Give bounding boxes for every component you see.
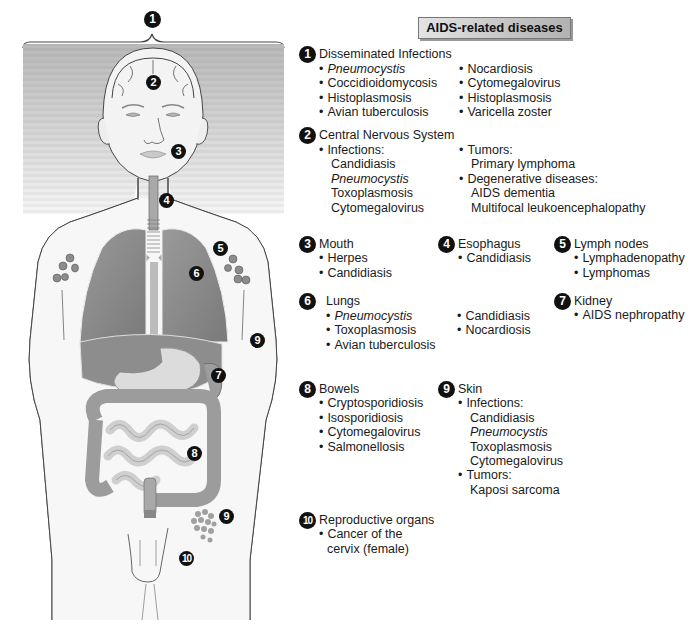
number-badge-6: 6 [299,293,316,310]
column-left: Pneumocystis Toxoplasmosis Avian tubercu… [326,309,436,352]
marker-6: 6 [189,266,204,281]
marker-7: 7 [211,368,226,383]
sublist-label: Infections: [458,396,598,410]
list-item: Toxoplasmosis [458,440,598,454]
list-item: Coccidioidomycosis [319,76,437,90]
column-right: Nocardiosis Cytomegalovirus Histoplasmos… [459,62,560,120]
body-drawing [0,0,300,628]
number-badge-3: 3 [299,236,316,253]
list-item: Nocardiosis [457,323,531,337]
list-item: Cytomegalovirus [458,454,598,468]
marker-5: 5 [213,241,228,256]
list-item: Salmonellosis [319,440,439,454]
section-heading: 10 Reproductive organs [299,513,459,527]
number-badge-4: 4 [438,236,455,253]
marker-2: 2 [146,75,161,90]
column-left: Infections: Candidiasis Pneumocystis Tox… [319,143,424,215]
number-badge-9: 9 [438,381,455,398]
section-heading: 1 Disseminated Infections [299,47,689,61]
section-lymph-nodes: 5 Lymph nodes Lymphadenopathy Lymphomas [554,237,700,280]
section-lungs: 6 Lungs Pneumocystis Toxoplasmosis Avian… [299,294,549,354]
list-item: AIDS nephropathy [574,308,700,322]
number-badge-2: 2 [299,127,316,144]
sublist-label: Tumors: [458,468,598,482]
section-cns: 2 Central Nervous System Infections: Can… [299,128,699,223]
section-heading: 9 Skin [438,382,598,396]
list-item: Multifocal leukoencephalopathy [459,201,645,215]
section-heading: 3 Mouth [299,237,429,251]
list-item-continuation: cervix (female) [319,542,459,556]
marker-1: 1 [144,11,161,28]
list-item: Cytomegalovirus [459,76,560,90]
section-bowels: 8 Bowels Cryptosporidiosis Isosporidiosi… [299,382,439,454]
section-heading: 4 Esophagus [438,237,548,251]
section-heading: 7 Kidney [554,294,700,308]
list-item: Primary lymphoma [459,157,645,171]
heading-text: Bowels [319,382,359,396]
heading-text: Lungs [326,294,360,308]
heading-text: Kidney [574,294,612,308]
list-item: Pneumocystis [458,425,598,439]
list-item: Histoplasmosis [459,91,560,105]
number-badge-7: 7 [554,293,571,310]
list-item: Cytomegalovirus [319,201,424,215]
heading-text: Skin [458,382,482,396]
section-heading: 5 Lymph nodes [554,237,700,251]
column-right: Tumors: Primary lymphoma Degenerative di… [459,143,645,215]
heading-text: Disseminated Infections [319,47,452,61]
list-item: Candidiasis [319,157,424,171]
diagram-title: AIDS-related diseases [418,17,571,39]
marker-4: 4 [159,193,174,208]
list-item: Candidiasis [458,251,548,265]
list-item: Pneumocystis [319,62,437,76]
sublist-label: Degenerative diseases: [459,172,645,186]
marker-3: 3 [171,144,186,159]
list-item: Cytomegalovirus [319,425,439,439]
section-heading: 2 Central Nervous System [299,128,699,142]
heading-text: Esophagus [458,237,521,251]
heading-text: Mouth [319,237,354,251]
list-item: Toxoplasmosis [319,186,424,200]
list-item: Varicella zoster [459,105,560,119]
section-heading: 6 Lungs [299,294,549,308]
body-illustration: 1 2 3 4 5 6 7 8 9 9 10 [0,0,300,628]
list-item: Toxoplasmosis [326,323,436,337]
number-badge-1: 1 [299,46,316,63]
list-item: Avian tuberculosis [319,105,437,119]
section-kidney: 7 Kidney AIDS nephropathy [554,294,700,323]
section-reproductive: 10 Reproductive organs Cancer of the cer… [299,513,459,556]
list-item: Candidiasis [319,266,429,280]
section-skin: 9 Skin Infections: Candidiasis Pneumocys… [438,382,598,497]
heading-text: Central Nervous System [319,128,454,142]
marker-8: 8 [187,446,202,461]
list-item: Cancer of the [319,527,459,541]
marker-10: 10 [179,551,194,566]
list-item: Nocardiosis [459,62,560,76]
list-item: Kaposi sarcoma [458,483,598,497]
number-badge-10: 10 [299,512,316,529]
column-left: Pneumocystis Coccidioidomycosis Histopla… [319,62,437,120]
number-badge-5: 5 [554,236,571,253]
heading-text: Reproductive organs [319,513,434,527]
section-heading: 8 Bowels [299,382,439,396]
column-right: Candidiasis Nocardiosis [457,309,531,338]
list-item: Histoplasmosis [319,91,437,105]
list-item: Candidiasis [457,309,531,323]
list-item: Lymphadenopathy [574,251,700,265]
number-badge-8: 8 [299,381,316,398]
section-disseminated: 1 Disseminated Infections Pneumocystis C… [299,47,689,117]
list-item: Pneumocystis [319,172,424,186]
heading-text: Lymph nodes [574,237,649,251]
list-item: Herpes [319,251,429,265]
marker-9-torso: 9 [250,333,265,348]
section-mouth: 3 Mouth Herpes Candidiasis [299,237,429,280]
list-item: Pneumocystis [326,309,436,323]
list-item: Cryptosporidiosis [319,396,439,410]
sublist-label: Tumors: [459,143,645,157]
list-item: Avian tuberculosis [326,338,436,352]
marker-9-lesion: 9 [219,509,234,524]
list-item: Lymphomas [574,266,700,280]
list-item: Candidiasis [458,411,598,425]
list-item: AIDS dementia [459,186,645,200]
sublist-label: Infections: [319,143,424,157]
